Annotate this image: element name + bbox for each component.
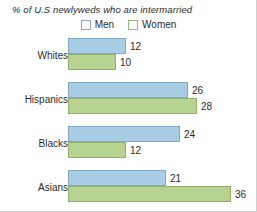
bar-blacks-women xyxy=(68,142,126,158)
plot-area: Whites 12 10 Hispanics 26 xyxy=(0,36,257,212)
legend-label-men: Men xyxy=(95,19,114,30)
bar-value-asians-women: 36 xyxy=(235,189,246,200)
category-label-blacks: Blacks xyxy=(39,138,68,149)
bar-row-hispanics-women: 28 xyxy=(68,98,212,114)
bar-value-whites-men: 12 xyxy=(130,41,141,52)
bar-group-asians: Asians 21 36 xyxy=(0,168,257,206)
bar-group-hispanics: Hispanics 26 28 xyxy=(0,80,257,118)
chart-title: % of U.S newlyweds who are intermarried xyxy=(12,4,192,15)
category-label-hispanics: Hispanics xyxy=(25,94,68,105)
bars-whites: 12 10 xyxy=(68,38,141,70)
women-swatch-icon xyxy=(128,20,138,30)
bar-asians-men xyxy=(68,170,166,186)
bar-row-blacks-women: 12 xyxy=(68,142,195,158)
bar-whites-men xyxy=(68,38,126,54)
bar-value-blacks-men: 24 xyxy=(184,129,195,140)
bars-asians: 21 36 xyxy=(68,170,246,202)
bar-blacks-men xyxy=(68,126,180,142)
legend-item-women: Women xyxy=(128,19,176,30)
bar-value-hispanics-women: 28 xyxy=(201,101,212,112)
bars-blacks: 24 12 xyxy=(68,126,195,158)
category-label-whites: Whites xyxy=(37,50,68,61)
bar-whites-women xyxy=(68,54,116,70)
bar-row-whites-men: 12 xyxy=(68,38,141,54)
bar-row-asians-men: 21 xyxy=(68,170,246,186)
legend-label-women: Women xyxy=(142,19,176,30)
men-swatch-icon xyxy=(81,20,91,30)
bar-asians-women xyxy=(68,186,231,202)
bar-value-asians-men: 21 xyxy=(170,173,181,184)
category-label-asians: Asians xyxy=(38,182,68,193)
legend-item-men: Men xyxy=(81,19,114,30)
bar-row-hispanics-men: 26 xyxy=(68,82,212,98)
chart-legend: Men Women xyxy=(0,19,257,30)
bar-row-whites-women: 10 xyxy=(68,54,141,70)
bar-hispanics-women xyxy=(68,98,197,114)
bar-value-blacks-women: 12 xyxy=(130,145,141,156)
bar-row-blacks-men: 24 xyxy=(68,126,195,142)
bar-group-blacks: Blacks 24 12 xyxy=(0,124,257,162)
bar-value-whites-women: 10 xyxy=(120,57,131,68)
intermarriage-bar-chart: % of U.S newlyweds who are intermarried … xyxy=(0,0,257,212)
bar-row-asians-women: 36 xyxy=(68,186,246,202)
bar-group-whites: Whites 12 10 xyxy=(0,36,257,74)
bars-hispanics: 26 28 xyxy=(68,82,212,114)
bar-hispanics-men xyxy=(68,82,188,98)
bar-value-hispanics-men: 26 xyxy=(192,85,203,96)
